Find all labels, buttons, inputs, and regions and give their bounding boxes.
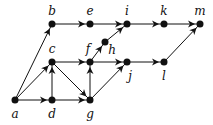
node-f xyxy=(87,59,94,66)
node-label-k: k xyxy=(160,4,167,18)
node-i xyxy=(124,21,131,28)
edge-a-b xyxy=(15,24,52,100)
node-label-f: f xyxy=(85,42,93,56)
node-label-a: a xyxy=(11,107,18,121)
directed-graph: abcdefghijklm xyxy=(0,0,213,125)
node-e xyxy=(87,21,94,28)
node-g xyxy=(87,97,94,104)
node-a xyxy=(12,97,19,104)
node-label-m: m xyxy=(194,4,205,18)
node-b xyxy=(49,21,56,28)
arrowhead-icon xyxy=(44,27,53,36)
node-label-c: c xyxy=(49,42,56,56)
node-label-b: b xyxy=(48,4,56,18)
node-label-l: l xyxy=(162,69,166,83)
node-label-e: e xyxy=(86,4,93,18)
node-c xyxy=(49,59,56,66)
node-label-i: i xyxy=(125,4,129,18)
node-label-j: j xyxy=(125,69,132,83)
node-m xyxy=(197,21,204,28)
node-k xyxy=(161,21,168,28)
edges xyxy=(15,21,200,104)
node-label-d: d xyxy=(48,107,56,121)
node-d xyxy=(49,97,56,104)
arrowhead-icon xyxy=(95,44,105,54)
edge-f-h xyxy=(90,42,105,62)
node-j xyxy=(124,59,131,66)
node-label-g: g xyxy=(86,107,94,121)
node-l xyxy=(161,59,168,66)
node-label-h: h xyxy=(108,43,116,57)
